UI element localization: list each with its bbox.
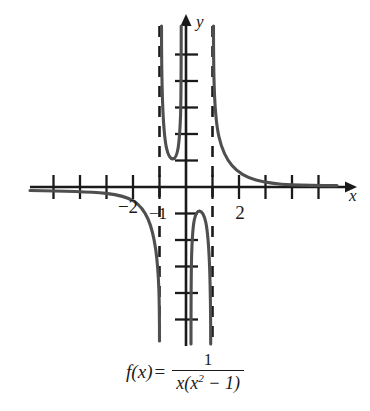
curve-branch-mid-left — [162, 26, 182, 159]
x-tick-label-neg1: −1 — [149, 204, 167, 223]
caption-math: f(x)= 1 x(x2 − 1) — [126, 352, 244, 395]
x-tick-label-pos2: 2 — [235, 202, 245, 223]
caption-numerator: 1 — [172, 351, 244, 370]
caption-denominator: x(x2 − 1) — [172, 371, 244, 394]
y-axis-arrowhead — [181, 14, 192, 26]
function-curves — [30, 26, 337, 344]
curve-branch-right — [214, 26, 338, 186]
x-tick-labels: −2 −1 2 — [118, 196, 245, 223]
graph-text-labels: y x — [194, 12, 357, 205]
caption-denominator-pre: x(x — [176, 373, 198, 393]
x-axis-label: x — [348, 186, 357, 205]
curve-branch-left — [30, 191, 160, 342]
graph-plot-area: y x −2 −1 2 — [0, 0, 370, 370]
caption-function-name: f(x) — [126, 361, 152, 382]
caption-denominator-post: − 1) — [204, 373, 240, 393]
y-axis-label: y — [194, 12, 204, 31]
function-caption: f(x)= 1 x(x2 − 1) — [0, 352, 370, 395]
function-graph-figure: y x −2 −1 2 f(x)= 1 x(x2 − 1) — [0, 0, 370, 411]
x-tick-label-neg2: −2 — [118, 196, 138, 217]
caption-fraction: 1 x(x2 − 1) — [172, 351, 244, 394]
caption-equals: = — [154, 361, 165, 382]
curve-branch-mid-right — [191, 211, 211, 344]
